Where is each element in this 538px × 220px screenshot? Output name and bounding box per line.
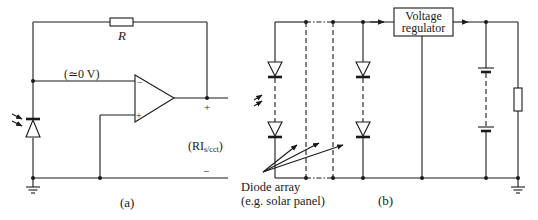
resistor-label: R xyxy=(117,28,126,43)
output-minus-sign: − xyxy=(203,165,209,177)
photodiode-icon xyxy=(12,114,40,137)
panel-a-caption: (a) xyxy=(120,195,134,210)
battery-icon xyxy=(478,22,494,178)
ground-icon xyxy=(511,178,525,193)
opamp-inverting-sign: − xyxy=(137,77,143,88)
diode-string-left xyxy=(268,22,282,178)
feedback-resistor xyxy=(33,18,207,26)
diode-string-right xyxy=(356,22,370,178)
ground-icon xyxy=(26,178,40,193)
diode-array-label-line2: (e.g. solar panel) xyxy=(241,194,325,208)
op-amp: − + xyxy=(135,75,174,122)
voltage-regulator: Voltage regulator xyxy=(394,8,453,36)
opamp-noninverting-sign: + xyxy=(136,110,142,121)
noninv-ground-node xyxy=(98,176,102,180)
diode-array-label-line1: Diode array xyxy=(241,180,301,194)
light-arrows-icon xyxy=(254,95,262,106)
load-resistor xyxy=(514,22,522,178)
panel-a-photodiode-amplifier: R (≃0 V) − + + − (RIs/cct) xyxy=(12,18,228,210)
panel-b-caption: (b) xyxy=(378,193,393,208)
junction-node xyxy=(31,79,35,83)
regulator-label-line2: regulator xyxy=(402,21,445,35)
virtual-ground-label: (≃0 V) xyxy=(64,67,100,81)
panel-b-solar-panel-circuit: Voltage regulator xyxy=(241,8,525,208)
output-voltage-label: (RIs/cct) xyxy=(188,139,223,154)
circuit-figure: R (≃0 V) − + + − (RIs/cct) xyxy=(0,0,538,220)
output-node xyxy=(205,96,209,100)
output-plus-sign: + xyxy=(204,101,210,113)
